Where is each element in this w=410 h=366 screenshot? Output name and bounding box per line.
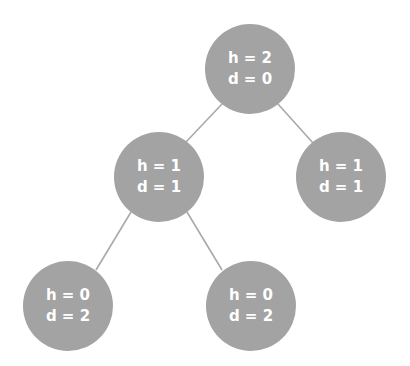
edge-left-leftright (187, 212, 222, 270)
depth-label: d = 2 (46, 306, 90, 327)
edge-root-right (278, 104, 313, 143)
height-label: h = 0 (229, 285, 273, 306)
depth-label: d = 0 (228, 69, 272, 90)
depth-label: d = 1 (319, 177, 363, 198)
tree-node-left-right: h = 0 d = 2 (206, 261, 296, 351)
height-label: h = 1 (319, 156, 363, 177)
tree-node-left-left: h = 0 d = 2 (23, 261, 113, 351)
height-label: h = 2 (228, 48, 272, 69)
tree-node-left: h = 1 d = 1 (114, 132, 204, 222)
height-label: h = 1 (137, 156, 181, 177)
edge-root-left (186, 104, 222, 142)
depth-label: d = 1 (137, 177, 181, 198)
depth-label: d = 2 (229, 306, 273, 327)
tree-node-root: h = 2 d = 0 (205, 24, 295, 114)
edge-left-leftleft (96, 212, 131, 270)
height-label: h = 0 (46, 285, 90, 306)
tree-node-right: h = 1 d = 1 (296, 132, 386, 222)
